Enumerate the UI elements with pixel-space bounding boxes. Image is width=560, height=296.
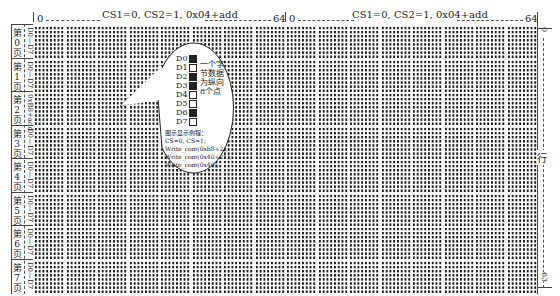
pixel-block (475, 227, 505, 259)
page-bit-range: D0—D7 (26, 128, 34, 158)
bit-row: D4 (176, 90, 197, 99)
pixel-block (507, 26, 537, 58)
pixel-off-icon (189, 64, 197, 72)
bit-row: D7 (176, 117, 197, 126)
page-label-part: 1 (11, 72, 23, 82)
page-label-part: 页 (11, 48, 23, 58)
pixel-block (444, 261, 474, 293)
pixel-block (97, 261, 127, 293)
page-label-2: 第2页 (11, 95, 23, 125)
pixel-block (349, 26, 379, 58)
left-half-dash-line-b (205, 20, 271, 21)
page-label-part: 第 (11, 28, 23, 38)
pixel-block (412, 93, 442, 125)
pixel-off-icon (189, 91, 197, 99)
pixel-block (286, 261, 316, 293)
pixel-block (66, 227, 96, 259)
pixel-block (192, 261, 222, 293)
pixel-block (381, 93, 411, 125)
example-line: Write_com(0x40); (165, 161, 232, 169)
pixel-block (286, 227, 316, 259)
pixel-block (475, 60, 505, 92)
pixel-block (160, 261, 190, 293)
bit-row: D2 (176, 72, 197, 81)
callout-note: 一个字 节数据 为纵向 8个点 (200, 60, 224, 96)
page-separator (11, 158, 33, 159)
page-label-part: 5 (11, 206, 23, 216)
page-bit-range: D0—D7 (26, 61, 34, 91)
bit-name: D7 (176, 117, 188, 126)
page-label-part: 6 (11, 239, 23, 249)
page-label-divider (24, 24, 25, 294)
pixel-block (412, 127, 442, 159)
pixel-block (475, 26, 505, 58)
pixel-block (129, 261, 159, 293)
page-label-4: 第4页 (11, 162, 23, 192)
page-label-part: 4 (11, 172, 23, 182)
pixel-block (507, 160, 537, 192)
pixel-block (475, 194, 505, 226)
pixel-block (381, 160, 411, 192)
pixel-block (507, 261, 537, 293)
bit-name: D0 (176, 54, 188, 63)
page-label-part: 0 (11, 38, 23, 48)
pixel-block (318, 26, 348, 58)
page-label-part: 页 (11, 182, 23, 192)
pixel-block (507, 227, 537, 259)
pixel-block (286, 127, 316, 159)
pixel-block (160, 194, 190, 226)
pixel-block (223, 261, 253, 293)
pixel-block (381, 60, 411, 92)
right-half-dash-line-a (298, 20, 354, 21)
page-label-part: 7 (11, 273, 23, 283)
pixel-block (129, 227, 159, 259)
pixel-block (66, 160, 96, 192)
pixel-block (349, 261, 379, 293)
page-label-6: 第6页 (11, 229, 23, 259)
pixel-block (444, 194, 474, 226)
pixel-block (34, 26, 64, 58)
pixel-block (444, 26, 474, 58)
pixel-block (286, 60, 316, 92)
page-label-part: 第 (11, 162, 23, 172)
right-half-top-border (285, 12, 286, 22)
pixel-block (34, 261, 64, 293)
bit-name: D2 (176, 72, 188, 81)
page-separator (11, 192, 33, 193)
pixel-block (318, 194, 348, 226)
page-label-part: 2 (11, 105, 23, 115)
page-bit-range: D0—D7 (26, 195, 34, 225)
pixel-block (255, 261, 285, 293)
pixel-block (34, 160, 64, 192)
pixel-block (475, 160, 505, 192)
bit-name: D5 (176, 99, 188, 108)
page-separator (11, 24, 33, 25)
pixel-block (444, 127, 474, 159)
pixel-block (444, 227, 474, 259)
pixel-block (255, 160, 285, 192)
page-label-part: 第 (11, 263, 23, 273)
page-bit-range: D0—D7 (26, 27, 34, 57)
page-label-part: 页 (11, 115, 23, 125)
pixel-block (286, 194, 316, 226)
pixel-block (223, 227, 253, 259)
pixel-block (255, 127, 285, 159)
pixel-block (381, 127, 411, 159)
right-axis-row-label: 行 (537, 150, 547, 165)
pixel-block (412, 60, 442, 92)
right-half-start-label: 0 (289, 13, 295, 24)
callout-note-line: 为纵向 (200, 78, 224, 87)
pixel-off-icon (189, 100, 197, 108)
page-bit-range: D0—D7 (26, 262, 34, 292)
callout-example: 图示显示例程： CS=0, CS=1; Write_com(0xb8+2); W… (165, 129, 232, 169)
right-half-end-label: 64 (525, 13, 538, 24)
right-axis-bottom-label: 63 (540, 272, 549, 282)
page-label-0: 第0页 (11, 28, 23, 58)
page-label-7: 第7页 (11, 263, 23, 293)
bit-name: D6 (176, 108, 188, 117)
pixel-block (192, 227, 222, 259)
pixel-block (412, 261, 442, 293)
callout-note-line: 8个点 (200, 87, 224, 96)
pixel-block (381, 194, 411, 226)
pixel-block (412, 227, 442, 259)
